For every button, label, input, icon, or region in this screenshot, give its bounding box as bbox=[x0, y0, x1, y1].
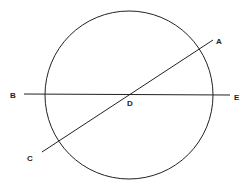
label-e: E bbox=[234, 93, 240, 102]
label-b: B bbox=[10, 91, 16, 100]
line-be bbox=[24, 94, 230, 95]
label-c: C bbox=[27, 154, 33, 163]
label-d: D bbox=[127, 99, 133, 108]
line-ca bbox=[42, 40, 213, 152]
geometry-diagram: A B C D E bbox=[0, 0, 250, 193]
label-a: A bbox=[216, 37, 222, 46]
